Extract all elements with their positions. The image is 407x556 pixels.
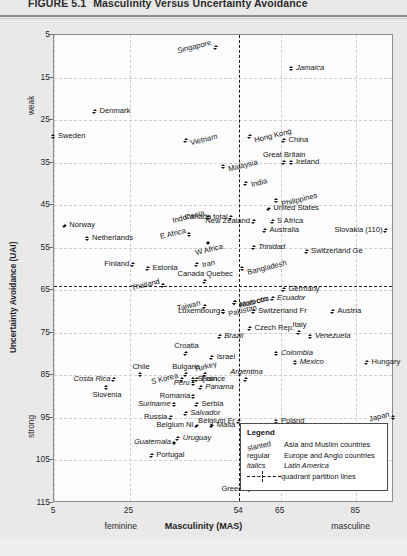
- gridline-vertical: [130, 35, 131, 501]
- data-point-label: Serbia: [202, 400, 224, 408]
- data-point: [93, 109, 97, 111]
- data-point: [191, 377, 195, 379]
- data-point: [51, 134, 55, 136]
- title-rule: [0, 15, 407, 17]
- data-point: [308, 334, 312, 336]
- data-point: [248, 134, 252, 136]
- data-point-label: United States: [273, 204, 319, 212]
- data-point: [252, 219, 256, 221]
- data-point: [161, 283, 165, 285]
- legend-box: Legend slantedAsia and Muslim countriesr…: [240, 423, 388, 491]
- data-point: [274, 351, 278, 353]
- legend-description: quadrant partition lines: [281, 472, 356, 481]
- data-point: [184, 372, 188, 374]
- data-point-label: Colombia: [281, 349, 313, 357]
- data-point: [297, 330, 301, 332]
- gridline-vertical: [54, 35, 55, 501]
- bottom-margin: [0, 537, 407, 556]
- data-point: [271, 219, 275, 221]
- data-point: [195, 424, 199, 426]
- y-axis-tick-label: 85: [24, 369, 50, 379]
- data-point-label: Japan: [368, 411, 390, 424]
- data-point: [206, 241, 210, 243]
- data-point: [244, 181, 248, 183]
- data-point-label: Indonesia: [171, 209, 205, 225]
- data-point-label: Iran: [201, 258, 216, 269]
- data-point: [195, 262, 199, 264]
- data-point: [191, 394, 195, 396]
- data-point-label: Costa Rica: [73, 375, 110, 383]
- data-point: [195, 402, 199, 404]
- data-point-label: Austria: [338, 307, 362, 315]
- data-point-label: Peru: [174, 379, 190, 387]
- data-point-label: Singapore: [177, 39, 213, 55]
- data-point: [214, 45, 218, 47]
- data-point-label: Israel: [217, 353, 236, 361]
- y-axis-tick-label: 5: [24, 29, 50, 39]
- data-point: [104, 385, 108, 387]
- data-point-label: Luxembourg: [178, 307, 220, 315]
- data-point-label: Uruguay: [183, 434, 212, 442]
- legend-description: Latin America: [284, 461, 329, 470]
- data-point-label: Finland: [104, 260, 129, 268]
- data-point: [289, 66, 293, 68]
- data-point-label: Hungary: [372, 358, 401, 366]
- legend-description: Asia and Muslim countries: [284, 440, 370, 449]
- data-point: [293, 360, 297, 362]
- data-point: [218, 334, 222, 336]
- data-point: [210, 424, 214, 426]
- x-axis-tick-label: 65: [260, 505, 300, 515]
- data-point-label: Denmark: [100, 107, 131, 115]
- data-point-label: Brazil: [224, 332, 243, 340]
- data-point: [384, 228, 388, 230]
- data-point: [365, 360, 369, 362]
- y-axis-title: Uncertainty Avoidance (UAI): [8, 242, 18, 353]
- figure-number: FIGURE 5.1: [28, 0, 86, 9]
- x-axis-tick-label: 5: [33, 505, 73, 515]
- data-point: [263, 228, 267, 230]
- data-point-label: Suriname: [138, 400, 171, 408]
- data-point: [63, 224, 67, 226]
- data-point-label: Panama: [205, 383, 233, 391]
- data-point-label: Chile: [132, 363, 149, 371]
- gridline-horizontal: [54, 205, 392, 206]
- data-point-label: E Africa: [159, 227, 186, 241]
- data-point-label: Slovakia (110): [334, 226, 382, 234]
- y-axis-weak-label: weak: [26, 95, 36, 114]
- data-point: [248, 326, 252, 328]
- legend-heading: Legend: [247, 428, 382, 437]
- data-point-label: Italy: [293, 321, 307, 329]
- y-axis-tick-label: 65: [24, 284, 50, 294]
- data-point-label: Sweden: [58, 132, 85, 140]
- data-point-label: Trinidad: [258, 243, 285, 251]
- data-point: [282, 138, 286, 140]
- data-point-label: Switzerland Ge: [311, 247, 363, 255]
- y-axis-tick-mark: [48, 502, 53, 503]
- legend-key-sample: italics: [247, 461, 284, 470]
- data-point-label: Mexico: [300, 358, 324, 366]
- figure-container: FIGURE 5.1Masculinity Versus Uncertainty…: [0, 0, 407, 556]
- data-point: [289, 160, 293, 162]
- data-point-label: Norway: [69, 221, 95, 229]
- data-point-label: W Africa: [194, 243, 223, 258]
- y-axis-tick-label: 75: [24, 327, 50, 337]
- data-point: [131, 262, 135, 264]
- data-point: [169, 415, 173, 417]
- data-point: [244, 377, 248, 379]
- data-point: [184, 138, 188, 140]
- data-point: [187, 232, 191, 234]
- y-axis-tick-label: 55: [24, 242, 50, 252]
- y-axis-strong-label: strong: [26, 415, 36, 438]
- data-point-label: New Zealand: [205, 217, 250, 225]
- data-point-label: Croatia: [174, 342, 198, 350]
- data-point: [274, 198, 278, 200]
- y-axis-tick-label: 35: [24, 157, 50, 167]
- data-point: [221, 309, 225, 311]
- data-point: [391, 415, 395, 417]
- data-point: [203, 279, 207, 281]
- data-point: [331, 309, 335, 311]
- data-point-label: Guatemala: [134, 438, 171, 446]
- data-point: [221, 164, 225, 166]
- legend-row: slantedAsia and Muslim countries: [247, 440, 382, 449]
- data-point: [184, 351, 188, 353]
